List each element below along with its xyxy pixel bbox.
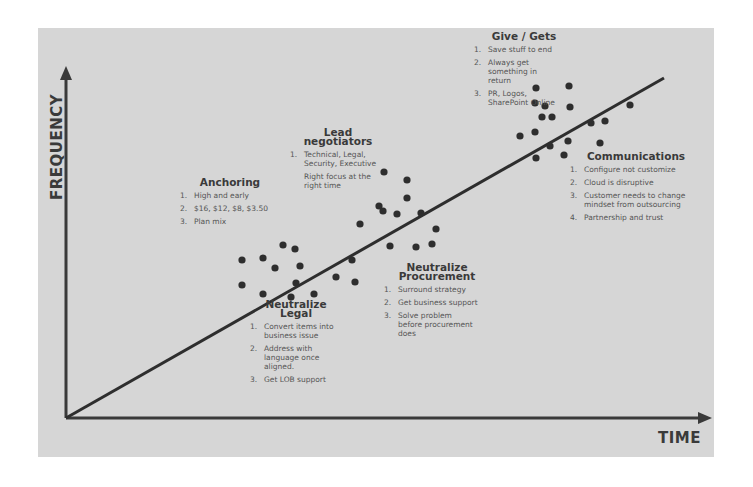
list-item: 3.Customer needs to change mindset from …: [570, 191, 702, 209]
stage-note: Right focus at the right time: [304, 172, 386, 190]
list-item: 3.PR, Logos, SharePoint Online: [474, 89, 574, 107]
list-item: 3.Plan mix: [180, 217, 280, 226]
list-item: 3.Solve problem before procurement does: [384, 311, 502, 338]
stage-title: Communications: [570, 152, 702, 161]
list-item: 4.Partnership and trust: [570, 213, 702, 222]
diagram-graphics: [38, 28, 714, 457]
list-item: 2.$16, $12, $8, $3.50: [180, 204, 280, 213]
stage-items: 1.Surround strategy 2.Get business suppo…: [384, 285, 502, 338]
stage-anchoring: Anchoring 1.High and early 2.$16, $12, $…: [180, 178, 280, 230]
y-axis-label: FREQUENCY: [48, 94, 66, 200]
stage-title: Lead negotiators: [290, 128, 386, 146]
stage-title: Neutralize Legal: [250, 300, 342, 318]
diagram-panel: FREQUENCY TIME Anchoring 1.High and earl…: [38, 28, 714, 457]
stage-neutralize-legal: Neutralize Legal 1.Convert items into bu…: [250, 300, 342, 388]
x-axis-label: TIME: [658, 429, 701, 447]
list-item: 3.Get LOB support: [250, 375, 342, 384]
stage-items: 1.High and early 2.$16, $12, $8, $3.50 3…: [180, 191, 280, 226]
stage-neutralize-procurement: Neutralize Procurement 1.Surround strate…: [372, 263, 502, 342]
list-item: 1.High and early: [180, 191, 280, 200]
stage-lead-negotiators: Lead negotiators 1.Technical, Legal, Sec…: [290, 128, 386, 194]
stage-communications: Communications 1.Configure not customize…: [570, 152, 702, 226]
list-item: 2.Cloud is disruptive: [570, 178, 702, 187]
stage-title: Give / Gets: [474, 32, 574, 41]
stage-items: 1.Technical, Legal, Security, Executive: [290, 150, 386, 168]
stage-title: Neutralize Procurement: [372, 263, 502, 281]
stage-items: 1.Configure not customize 2.Cloud is dis…: [570, 165, 702, 222]
list-item: 1.Configure not customize: [570, 165, 702, 174]
list-item: 2.Always get something in return: [474, 58, 574, 85]
stage-items: 1.Convert items into business issue 2.Ad…: [250, 322, 342, 384]
list-item: 2.Address with language once aligned.: [250, 344, 342, 371]
stage-title: Anchoring: [180, 178, 280, 187]
list-item: 2.Get business support: [384, 298, 502, 307]
list-item: 1.Convert items into business issue: [250, 322, 342, 340]
list-item: 1.Technical, Legal, Security, Executive: [290, 150, 386, 168]
stage-give-gets: Give / Gets 1.Save stuff to end 2.Always…: [474, 32, 574, 111]
list-item: 1.Save stuff to end: [474, 45, 574, 54]
x-axis: [66, 412, 712, 424]
list-item: 1.Surround strategy: [384, 285, 502, 294]
stage-items: 1.Save stuff to end 2.Always get somethi…: [474, 45, 574, 107]
